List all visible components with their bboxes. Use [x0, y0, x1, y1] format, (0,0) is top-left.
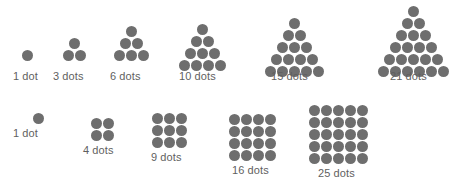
dot — [91, 130, 102, 141]
dot — [164, 137, 175, 148]
triangle-dots-6 — [378, 6, 449, 68]
dot — [289, 42, 300, 53]
dot — [63, 50, 74, 61]
square-group-4: 16 dots — [229, 114, 276, 161]
dot — [126, 50, 137, 61]
square-dots-2 — [91, 118, 114, 141]
dot — [265, 114, 276, 125]
dot — [253, 150, 264, 161]
square-dots-5 — [309, 105, 368, 164]
dot — [307, 54, 318, 65]
dot — [295, 54, 306, 65]
dot — [333, 153, 344, 164]
dot — [197, 48, 208, 59]
dot — [432, 54, 443, 65]
dot — [438, 66, 449, 77]
dot — [414, 42, 425, 53]
dot — [241, 150, 252, 161]
dot — [309, 129, 320, 140]
triangle-label-3: 6 dots — [110, 70, 141, 82]
dot — [408, 54, 419, 65]
dot — [132, 38, 143, 49]
dot — [215, 60, 226, 71]
dot — [333, 129, 344, 140]
triangle-dots-3 — [114, 26, 149, 68]
dot — [396, 54, 407, 65]
square-dots-4 — [229, 114, 276, 161]
dot — [241, 126, 252, 137]
dot — [309, 153, 320, 164]
dot — [103, 118, 114, 129]
dot — [164, 125, 175, 136]
dot — [33, 113, 44, 124]
triangle-dots-2 — [63, 38, 86, 68]
dot — [345, 117, 356, 128]
dot — [191, 36, 202, 47]
square-label-4: 16 dots — [232, 164, 269, 176]
triangle-group-1: 1 dot — [22, 50, 33, 68]
dot — [309, 105, 320, 116]
triangle-label-4: 10 dots — [179, 70, 216, 82]
dot — [357, 129, 368, 140]
dot — [271, 54, 282, 65]
dot — [345, 129, 356, 140]
dot — [333, 141, 344, 152]
dot — [152, 113, 163, 124]
triangle-group-4: 10 dots — [179, 24, 226, 68]
dot — [414, 18, 425, 29]
square-label-3: 9 dots — [151, 151, 182, 163]
square-dots-1 — [33, 113, 44, 124]
dot — [289, 18, 300, 29]
dot — [229, 138, 240, 149]
dot — [321, 129, 332, 140]
dot — [345, 105, 356, 116]
dot — [229, 150, 240, 161]
dot — [241, 138, 252, 149]
dot — [295, 30, 306, 41]
triangle-label-5: 15 dots — [271, 70, 308, 82]
square-dots-3 — [152, 113, 187, 148]
dot — [426, 42, 437, 53]
dot — [265, 138, 276, 149]
dot — [309, 141, 320, 152]
square-group-3: 9 dots — [152, 113, 187, 148]
dot — [345, 141, 356, 152]
dot — [321, 105, 332, 116]
triangle-dots-4 — [179, 24, 226, 68]
dot — [283, 30, 294, 41]
triangle-group-6: 21 dots — [378, 6, 449, 68]
triangle-label-6: 21 dots — [390, 70, 427, 82]
dot-pattern-figure: 1 dot 3 dots 6 dots 10 dots 15 dots 21 d… — [0, 0, 474, 190]
triangle-dots-1 — [22, 50, 33, 68]
dot — [253, 126, 264, 137]
dot — [126, 26, 137, 37]
dot — [333, 117, 344, 128]
triangle-label-1: 1 dot — [13, 70, 38, 82]
dot — [164, 113, 175, 124]
dot — [396, 30, 407, 41]
dot — [426, 66, 437, 77]
dot — [277, 42, 288, 53]
dot — [114, 50, 125, 61]
triangle-group-2: 3 dots — [63, 38, 86, 68]
triangle-label-2: 3 dots — [53, 70, 84, 82]
dot — [321, 117, 332, 128]
dot — [402, 18, 413, 29]
dot — [22, 50, 33, 61]
dot — [152, 137, 163, 148]
dot — [283, 54, 294, 65]
dot — [313, 66, 324, 77]
dot — [321, 141, 332, 152]
dot — [402, 42, 413, 53]
dot — [176, 137, 187, 148]
dot — [176, 113, 187, 124]
dot — [301, 42, 312, 53]
dot — [321, 153, 332, 164]
dot — [253, 138, 264, 149]
triangle-group-3: 6 dots — [114, 26, 149, 68]
triangle-group-5: 15 dots — [265, 18, 324, 68]
dot — [138, 50, 149, 61]
dot — [309, 117, 320, 128]
square-group-1: 1 dot — [33, 113, 44, 124]
dot — [176, 125, 187, 136]
